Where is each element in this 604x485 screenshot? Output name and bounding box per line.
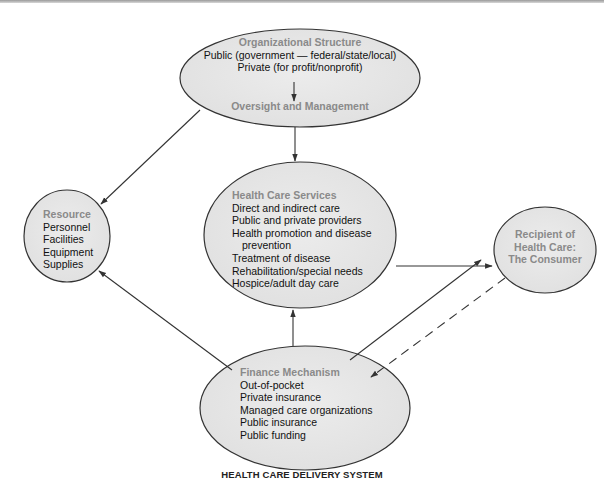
finance-mechanism-title: Finance Mechanism — [240, 366, 400, 379]
oversight-management-title: Oversight and Management — [180, 100, 420, 113]
finance-line: Public funding — [240, 429, 400, 442]
services-line: Hospice/adult day care — [232, 277, 392, 290]
node-finance-mechanism: Finance Mechanism Out-of-pocket Private … — [240, 366, 400, 442]
edge-org-to-resource — [101, 110, 200, 204]
services-line: Rehabilitation/special needs — [232, 265, 392, 278]
services-line: prevention — [232, 239, 392, 252]
resource-line: Supplies — [43, 258, 113, 271]
finance-line: Out-of-pocket — [240, 379, 400, 392]
recipient-title-line: Recipient of — [495, 228, 595, 241]
resource-line: Facilities — [43, 233, 113, 246]
finance-line: Public insurance — [240, 416, 400, 429]
node-recipient: Recipient of Health Care: The Consumer — [495, 228, 595, 266]
resource-line: Equipment — [43, 246, 113, 259]
organizational-structure-title: Organizational Structure — [180, 36, 420, 49]
health-care-services-title: Health Care Services — [232, 189, 392, 202]
org-line-public: Public (government — federal/state/local… — [180, 49, 420, 62]
diagram-caption: HEALTH CARE DELIVERY SYSTEM — [0, 469, 604, 480]
services-line: Treatment of disease — [232, 252, 392, 265]
finance-line: Private insurance — [240, 391, 400, 404]
resource-title: Resource — [43, 208, 113, 221]
edge-finance-to-resource — [99, 271, 232, 370]
finance-line: Managed care organizations — [240, 404, 400, 417]
org-line-private: Private (for profit/nonprofit) — [180, 61, 420, 74]
recipient-title-line: The Consumer — [495, 253, 595, 266]
node-health-care-services: Health Care Services Direct and indirect… — [232, 189, 392, 290]
recipient-title-line: Health Care: — [495, 241, 595, 254]
services-line: Public and private providers — [232, 214, 392, 227]
resource-line: Personnel — [43, 221, 113, 234]
node-organizational-structure: Organizational Structure Public (governm… — [180, 36, 420, 112]
services-line: Direct and indirect care — [232, 202, 392, 215]
node-resource: Resource Personnel Facilities Equipment … — [43, 208, 113, 271]
services-line: Health promotion and disease — [232, 227, 392, 240]
